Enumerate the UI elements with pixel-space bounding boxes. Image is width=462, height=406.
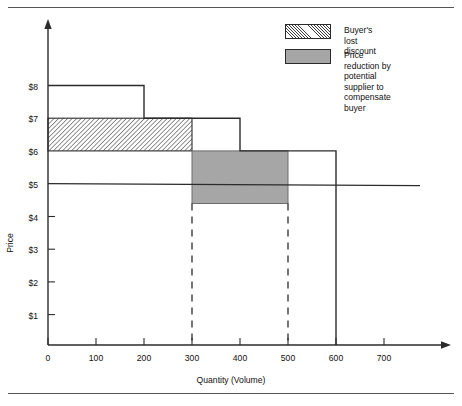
x-axis-arrowhead bbox=[441, 341, 451, 348]
legend-swatch-gray-icon bbox=[285, 49, 331, 64]
competing-supplier-price-line bbox=[48, 184, 420, 186]
x-tick-label-700: 700 bbox=[364, 353, 404, 363]
x-axis-ticks bbox=[48, 338, 384, 345]
y-tick-label-5: $5 bbox=[8, 180, 38, 190]
x-tick-label-0: 0 bbox=[28, 353, 68, 363]
x-tick-label-100: 100 bbox=[76, 353, 116, 363]
x-tick-label-400: 400 bbox=[220, 353, 260, 363]
region-buyers-lost-discount bbox=[48, 118, 192, 151]
x-tick-label-200: 200 bbox=[124, 353, 164, 363]
y-axis-arrowhead bbox=[44, 19, 51, 29]
y-axis-ticks bbox=[48, 217, 55, 315]
legend-item-price-reduction: Price reduction by potential supplier to… bbox=[285, 49, 391, 113]
chart-figure: $1 $2 $3 $4 $5 $6 $7 $8 0 100 200 300 40… bbox=[0, 0, 462, 406]
y-tick-label-7: $7 bbox=[8, 114, 38, 124]
x-tick-label-300: 300 bbox=[172, 353, 212, 363]
y-axis-title: Price bbox=[5, 219, 15, 267]
x-tick-label-500: 500 bbox=[268, 353, 308, 363]
y-tick-label-8: $8 bbox=[8, 82, 38, 92]
legend-label-price-reduction: Price reduction by potential supplier to… bbox=[344, 49, 391, 113]
legend-swatch-hatched-icon bbox=[285, 24, 331, 39]
x-tick-label-600: 600 bbox=[316, 353, 356, 363]
x-axis-title: Quantity (Volume) bbox=[0, 375, 462, 385]
y-tick-label-6: $6 bbox=[8, 147, 38, 157]
y-tick-label-1: $1 bbox=[8, 311, 38, 321]
y-tick-label-2: $2 bbox=[8, 278, 38, 288]
region-price-reduction bbox=[192, 151, 288, 204]
chart-canvas bbox=[0, 0, 462, 406]
